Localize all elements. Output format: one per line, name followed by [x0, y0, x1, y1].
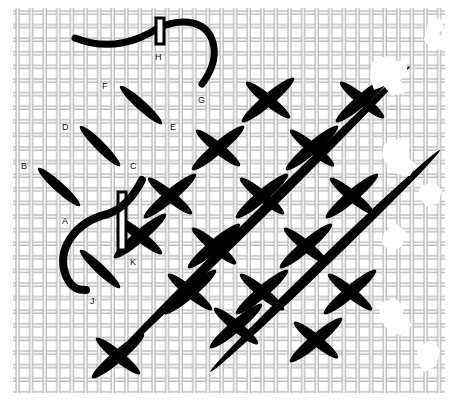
stitch-point-label-f: F: [102, 82, 108, 91]
stitch-point-label-k: K: [130, 258, 136, 267]
stitch-point-label-b: B: [21, 162, 27, 171]
stitch-point-label-g: G: [198, 96, 205, 105]
needle-top-icon: [156, 18, 164, 44]
stitch-point-label-h: H: [155, 53, 162, 62]
stitch-point-label-a: A: [62, 217, 68, 226]
stitch-point-label-c: C: [130, 162, 137, 171]
cross-stitch-diagram: HGFEDCBAKJ: [0, 0, 450, 403]
canvas-grid-illustration: [0, 0, 450, 403]
stitch-point-label-e: E: [170, 123, 176, 132]
stitch-point-label-d: D: [62, 123, 69, 132]
stitch-point-label-j: J: [90, 297, 95, 306]
